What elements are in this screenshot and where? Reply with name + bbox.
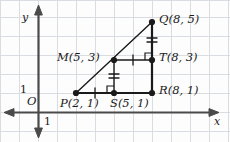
point-M [111, 57, 117, 63]
y-unit-label: 1 [20, 84, 27, 95]
y-axis-arrow-up [35, 5, 43, 15]
point-label-P: P(2, 1) [60, 98, 99, 110]
x-axis-label: x [214, 116, 220, 127]
point-label-R: R(8, 1) [159, 85, 199, 97]
point-T [149, 57, 155, 63]
x-axis-arrow-left [4, 109, 14, 117]
coordinate-diagram: y x O 1 1 P(2, 1) S(5, 1) R(8, 1) M(5, 3… [0, 0, 230, 142]
x-unit-label: 1 [44, 116, 51, 127]
point-Q [149, 19, 155, 25]
point-label-T: T(8, 3) [159, 52, 198, 64]
point-label-M: M(5, 3) [57, 52, 100, 64]
point-label-Q: Q(8, 5) [159, 14, 199, 26]
origin-label: O [27, 96, 36, 108]
y-axis-label: y [22, 12, 28, 23]
point-label-S: S(5, 1) [110, 98, 149, 110]
y-axis-arrow-down [35, 128, 43, 138]
point-R [149, 90, 155, 96]
